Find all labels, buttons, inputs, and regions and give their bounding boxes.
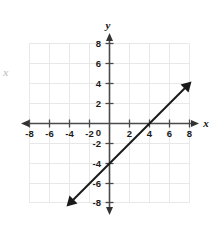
ytick-label-pos2: 2	[96, 98, 101, 109]
ytick-label-neg4: -4	[93, 158, 102, 169]
xtick-label-neg8: -8	[25, 128, 33, 139]
clipped-edge-label: x	[2, 66, 9, 78]
x-axis-label: x	[202, 117, 209, 129]
xtick-label-pos6: 6	[167, 128, 172, 139]
ytick-label-pos4: 4	[96, 78, 102, 89]
xtick-label-pos8: 8	[187, 128, 192, 139]
xtick-label-pos2: 2	[127, 128, 132, 139]
ytick-label-neg2: -2	[93, 138, 101, 149]
xtick-label-pos4: 4	[147, 128, 153, 139]
ytick-label-neg8: -8	[93, 197, 101, 208]
ytick-label-pos8: 8	[96, 38, 101, 49]
coordinate-plane-chart: -8 -6 -4 -2 2 4 6 8 8 6 4 2 -2 -4 -6 -8 …	[0, 0, 219, 230]
y-axis-label: y	[104, 19, 111, 31]
ytick-label-pos6: 6	[96, 58, 101, 69]
origin-label: 0	[96, 127, 101, 138]
xtick-label-neg6: -6	[45, 128, 53, 139]
xtick-label-neg4: -4	[65, 128, 74, 139]
graph-container: -8 -6 -4 -2 2 4 6 8 8 6 4 2 -2 -4 -6 -8 …	[0, 0, 219, 230]
